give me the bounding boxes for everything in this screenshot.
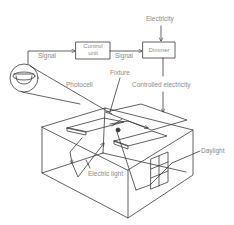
daylight-label: Daylight (201, 148, 224, 155)
lighting-control-diagram (0, 0, 234, 225)
dimmer-label: Dimmer (143, 47, 175, 54)
control-unit-label: Control unit (76, 43, 110, 57)
fixture-label: Fixture (110, 70, 130, 77)
electric-light-label: Electric light (88, 171, 123, 178)
window-icon (151, 152, 168, 189)
photocell-label: Photocell (66, 82, 93, 89)
signal-label-1: Signal (38, 53, 56, 60)
room-box (42, 108, 193, 218)
electricity-label: Electricity (146, 16, 174, 23)
controlled-electricity-label: Controlled electricity (132, 82, 191, 89)
signal-label-2: Signal (115, 53, 133, 60)
fixture-icon (116, 128, 120, 132)
